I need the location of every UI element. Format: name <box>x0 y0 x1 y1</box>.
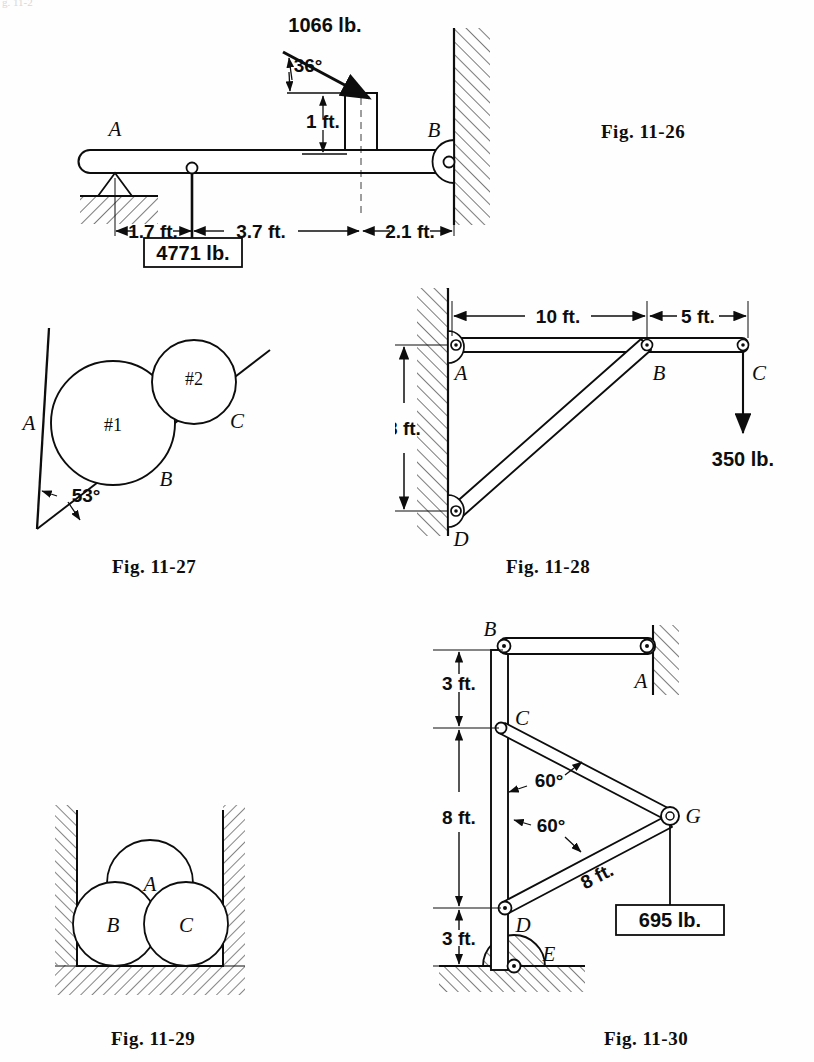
figure-11-28: A B C D 350 lb. 10 ft. 5 ft. <box>395 288 795 568</box>
pin-joint-A-30 <box>641 640 654 653</box>
figure-11-27: #1 #2 A B C 53° <box>20 310 290 560</box>
pin-joint-E-30 <box>508 960 521 973</box>
dimension-label-3-7ft: 3.7 ft. <box>236 221 286 242</box>
dimension-label-8ft-28: 8 ft. <box>395 418 421 439</box>
caption-fig-11-30: Fig. 11-30 <box>604 1028 688 1050</box>
force-label-1066: 1066 lb. <box>288 14 361 36</box>
cylinder-2-label: #2 <box>185 369 203 389</box>
pin-support-B <box>433 140 455 183</box>
point-label-A-27: A <box>21 411 36 435</box>
point-label-C-27: C <box>230 409 245 433</box>
caption-fig-11-29: Fig. 11-29 <box>111 1028 195 1050</box>
point-label-A: A <box>107 117 122 141</box>
figure-11-26: B A 4771 lb. 1066 lb. <box>40 10 600 275</box>
tie-rod-BA <box>499 638 655 654</box>
load-label-350: 350 lb. <box>712 448 774 470</box>
figure-11-29: A B C <box>55 805 315 1010</box>
dimension-label-1ft: 1 ft. <box>306 111 340 132</box>
figure-11-30: B A C D E G 60° 60° 8 ft. 695 lb. <box>425 620 805 1030</box>
pin-joint-B-30 <box>498 640 511 653</box>
wall-right-30 <box>653 625 679 695</box>
wall-right <box>454 28 490 225</box>
cylinder-B-29-label: B <box>107 913 120 937</box>
caption-fig-11-28: Fig. 11-28 <box>506 556 590 578</box>
beam-member <box>79 150 455 173</box>
page-top-fragment: g. 11-2 <box>2 0 33 8</box>
dimension-1ft: 1 ft. <box>302 96 347 154</box>
dimension-label-1-7ft: 1.7 ft. <box>128 221 178 242</box>
pin-joint-B <box>642 340 653 351</box>
hanger-rod <box>187 163 198 243</box>
weight-label-4771: 4771 lb. <box>156 242 229 264</box>
dimension-label-8ft-30: 8 ft. <box>442 807 476 828</box>
dimension-label-10ft: 10 ft. <box>536 306 580 327</box>
cylinder-C-29-label: C <box>179 913 194 937</box>
point-label-A-28: A <box>453 361 468 385</box>
caption-fig-11-26: Fig. 11-26 <box>601 121 685 143</box>
point-label-B-30: B <box>484 620 497 641</box>
caption-fig-11-27: Fig. 11-27 <box>112 556 196 578</box>
point-label-C-28: C <box>752 361 767 385</box>
member-CG <box>499 723 668 818</box>
point-label-D-30: D <box>514 913 530 937</box>
knife-edge-support <box>80 173 158 224</box>
point-label-G-30: G <box>685 804 700 828</box>
dimension-label-2-1ft: 2.1 ft. <box>385 221 435 242</box>
dimension-row-top-28: 10 ft. 5 ft. <box>452 301 748 338</box>
mast-member-BE <box>491 650 508 970</box>
dimension-row-horizontal: 1.7 ft. 3.7 ft. 2.1 ft. <box>116 221 452 242</box>
pin-joint-C <box>738 340 749 351</box>
point-label-D-28: D <box>452 527 468 551</box>
point-label-B-28: B <box>653 361 666 385</box>
wall-left-28 <box>417 288 448 536</box>
point-label-A-30: A <box>633 669 648 693</box>
cylinder-1-label: #1 <box>104 415 122 435</box>
angle-label-53: 53° <box>72 485 101 506</box>
dimension-label-3ft-bottom: 3 ft. <box>442 928 476 949</box>
point-label-B-27: B <box>160 467 173 491</box>
weight-box-4771: 4771 lb. <box>144 238 242 267</box>
point-label-E-30: E <box>542 942 556 966</box>
pin-joint-G-30 <box>661 807 679 825</box>
vertical-wall-line <box>37 328 49 529</box>
member-DB <box>453 339 651 516</box>
point-label-B: B <box>428 118 441 142</box>
angle-label-60-C: 60° <box>535 770 564 791</box>
pin-bracket-A <box>448 331 464 363</box>
angle-53-annotation: 53° <box>42 485 100 520</box>
point-label-C-30: C <box>515 706 530 730</box>
dimension-label-3ft-top: 3 ft. <box>442 673 476 694</box>
member-DG <box>503 816 672 913</box>
angle-label-36: 36° <box>294 55 323 76</box>
figure-page: g. 11-2 <box>0 0 814 1062</box>
load-label-695: 695 lb. <box>639 909 701 931</box>
angle-label-60-D: 60° <box>537 815 566 836</box>
dimension-label-5ft: 5 ft. <box>681 306 715 327</box>
member-ABC <box>448 338 748 352</box>
angle-60-at-D: 60° <box>514 815 581 852</box>
